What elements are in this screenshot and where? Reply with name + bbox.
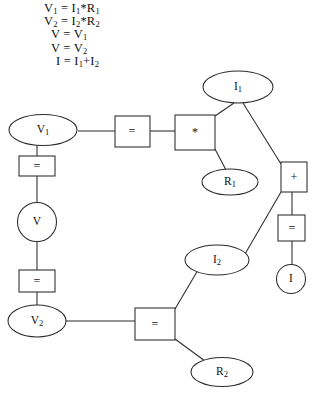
node-eq-top-left[interactable] [115, 116, 150, 147]
node-eq-bottom[interactable] [135, 308, 175, 340]
node-i2[interactable] [185, 245, 249, 275]
edge-eqbottom-r2 [175, 339, 205, 361]
node-r1[interactable] [202, 169, 258, 195]
equation-line-4: V = V2 [44, 42, 194, 55]
node-i1[interactable] [203, 71, 273, 103]
edge-mult-r1 [215, 149, 226, 170]
node-i[interactable] [277, 265, 306, 294]
node-r2[interactable] [191, 358, 253, 387]
node-eq-left-upper[interactable] [19, 156, 55, 176]
node-eq-right[interactable] [278, 215, 305, 241]
edge-eqbottom-i2 [175, 270, 198, 309]
node-v2[interactable] [8, 305, 66, 337]
node-layer [8, 71, 307, 387]
node-mult-top[interactable] [175, 115, 215, 150]
equation-line-3: V = V1 [44, 28, 194, 41]
equation-list: V1 = I1*R1 V2 = I2*R2 V = V1 V = V2 I = … [44, 2, 194, 68]
edge-plus-i2 [245, 192, 281, 254]
node-v[interactable] [18, 203, 57, 242]
node-eq-left-lower[interactable] [19, 270, 55, 292]
edge-mult-i1 [215, 103, 234, 116]
node-v1[interactable] [9, 115, 77, 146]
node-plus-right[interactable] [281, 162, 307, 192]
equation-line-5: I = I1+I2 [44, 55, 194, 68]
edge-i1-plus [243, 103, 281, 164]
